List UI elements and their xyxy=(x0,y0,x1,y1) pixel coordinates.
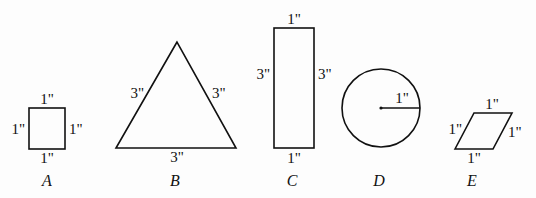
triangle-bottom-label: 3" xyxy=(170,149,184,165)
rhombus-right-label: 1" xyxy=(508,124,522,140)
figure-name-e: E xyxy=(466,172,477,189)
square-bottom-label: 1" xyxy=(40,150,54,166)
circle-center-dot xyxy=(379,106,382,109)
rhombus-bottom-label: 1" xyxy=(467,150,481,166)
rectangle-shape xyxy=(274,28,314,148)
triangle-right-label: 3" xyxy=(212,85,226,101)
rectangle-left-label: 3" xyxy=(256,66,270,82)
triangle-left-label: 3" xyxy=(130,85,144,101)
rhombus-left-label: 1" xyxy=(448,121,462,137)
figure-name-c: C xyxy=(287,172,298,189)
circle-radius-label: 1" xyxy=(395,90,409,106)
rectangle-right-label: 3" xyxy=(318,66,332,82)
rectangle-bottom-label: 1" xyxy=(287,150,301,166)
square-right-label: 1" xyxy=(69,121,83,137)
square-top-label: 1" xyxy=(40,91,54,107)
rhombus-top-label: 1" xyxy=(485,96,499,112)
shapes-diagram: 1" 1" 1" 1" A 3" 3" 3" B 1" 3" 3" 1" C 1… xyxy=(0,0,536,198)
figure-name-a: A xyxy=(41,172,52,189)
figure-name-b: B xyxy=(170,172,180,189)
figure-c-rectangle: 1" 3" 3" 1" C xyxy=(256,11,331,189)
figure-name-d: D xyxy=(372,172,385,189)
square-left-label: 1" xyxy=(11,121,25,137)
rectangle-top-label: 1" xyxy=(287,11,301,27)
figure-a-square: 1" 1" 1" 1" A xyxy=(11,91,82,189)
rhombus-shape xyxy=(455,113,512,149)
figure-d-circle: 1" D xyxy=(342,69,420,189)
figure-b-triangle: 3" 3" 3" B xyxy=(116,42,236,189)
figure-e-rhombus: 1" 1" 1" 1" E xyxy=(448,96,521,189)
square-shape xyxy=(29,108,65,149)
